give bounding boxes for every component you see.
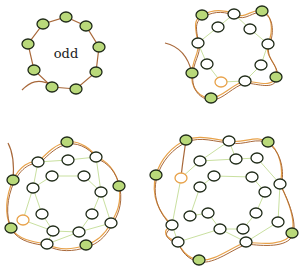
green-bead [196,10,208,20]
white-bead [41,239,53,249]
white-bead [262,39,274,49]
white-bead [223,136,235,146]
white-bead [184,211,196,221]
panel-step-3 [5,137,125,251]
green-bead [93,42,105,52]
inner-thread [178,229,220,242]
green-bead [5,223,17,233]
green-bead [113,181,125,191]
green-bead [80,21,92,31]
outer-thread-orange [192,10,277,98]
green-bead [22,39,34,49]
white-bead [78,171,90,181]
white-bead [73,227,85,237]
green-bead [286,228,298,238]
green-bead [186,68,198,78]
white-bead [208,171,220,181]
thread-tail [165,43,192,73]
white-bead [237,224,249,234]
green-bead [70,84,82,94]
white-bead [251,153,263,163]
white-bead [239,76,251,86]
green-bead [180,135,192,145]
white-bead [244,24,256,34]
inner-thread [172,178,181,225]
white-bead [47,226,59,236]
green-bead [28,65,40,75]
green-bead [270,72,282,82]
highlighted-bead [17,215,29,225]
white-bead [46,171,58,181]
highlighted-bead [175,173,187,183]
white-bead [86,209,98,219]
white-bead [240,237,252,247]
green-bead [60,12,72,22]
panel-step-4 [150,135,298,265]
white-bead [255,60,267,70]
green-bead [90,67,102,77]
white-bead [95,187,107,197]
green-bead [150,170,162,180]
white-bead [230,154,242,164]
green-bead [205,93,217,103]
white-bead [90,152,102,162]
white-bead [250,208,262,218]
white-bead [166,220,178,230]
white-bead [32,157,44,167]
white-bead [62,155,74,165]
white-bead [214,224,226,234]
white-bead [194,182,206,192]
green-bead [262,137,274,147]
white-bead [228,9,240,19]
green-bead [46,82,58,92]
green-bead [256,6,268,16]
green-bead [80,240,92,250]
inner-thread [278,184,280,222]
outer-thread-brown [193,12,278,100]
panel-step-2 [165,6,282,103]
green-bead [61,137,73,147]
white-bead [212,22,224,32]
green-bead [193,255,205,265]
white-bead [36,209,48,219]
white-bead [259,187,271,197]
white-bead [274,179,286,189]
white-bead [27,183,39,193]
thread-tail [181,140,186,178]
white-bead [246,172,258,182]
white-bead [192,38,204,48]
white-bead [105,218,117,228]
white-bead [272,217,284,227]
odd-label: odd [54,46,78,61]
green-bead [37,19,49,29]
white-bead [194,156,206,166]
bead-weaving-diagram: odd [0,0,301,270]
white-bead [172,237,184,247]
green-bead [7,175,19,185]
white-bead [202,208,214,218]
white-bead [201,59,213,69]
highlighted-bead [215,77,227,87]
